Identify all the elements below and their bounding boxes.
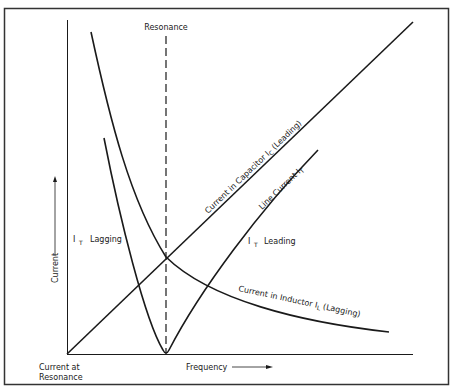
origin-label-line2: Resonance: [39, 373, 83, 382]
y-axis-label: Current: [51, 253, 60, 283]
svg-text:T: T: [78, 239, 83, 246]
svg-text:Leading: Leading: [264, 237, 296, 246]
origin-label-line1: Current at: [39, 363, 80, 372]
svg-text:I: I: [73, 235, 75, 244]
svg-text:Lagging: Lagging: [90, 235, 122, 244]
svg-text:I: I: [248, 237, 250, 246]
resonance-label: Resonance: [144, 23, 188, 32]
x-axis-label: Frequency: [186, 363, 228, 372]
svg-text:T: T: [253, 241, 258, 248]
resonance-diagram: Resonance Current Frequency Current at R…: [0, 0, 453, 391]
